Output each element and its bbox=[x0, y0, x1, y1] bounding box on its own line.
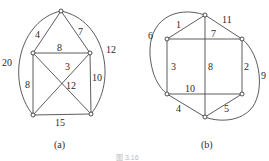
weight-b-6: 6 bbox=[148, 30, 153, 41]
node-a-mr bbox=[88, 51, 92, 55]
weight-a-8-top: 8 bbox=[57, 42, 62, 53]
node-b-ul bbox=[165, 37, 169, 41]
graph-a: 4 7 8 3 12 8 10 15 20 12 (a) bbox=[2, 9, 116, 151]
weight-a-20: 20 bbox=[2, 57, 12, 68]
edge-a-ml-br bbox=[33, 53, 91, 114]
node-b-bot bbox=[203, 115, 207, 119]
weight-b-1: 1 bbox=[176, 19, 181, 30]
weight-a-8-left: 8 bbox=[25, 79, 30, 90]
weight-a-15: 15 bbox=[55, 117, 65, 128]
caption-a: (a) bbox=[54, 139, 65, 151]
weight-b-10: 10 bbox=[185, 83, 195, 94]
edge-a-bl-br bbox=[33, 114, 91, 115]
node-b-ur bbox=[240, 37, 244, 41]
edge-b-top-ul bbox=[167, 15, 205, 39]
figure-caption-fragment: 图 3.16 bbox=[116, 154, 139, 161]
node-a-bl bbox=[31, 113, 35, 117]
edge-a-top-mr bbox=[61, 11, 90, 53]
weight-a-4: 4 bbox=[35, 29, 40, 40]
edge-a-mr-br bbox=[90, 53, 91, 114]
caption-b: (b) bbox=[201, 139, 213, 151]
weight-a-10: 10 bbox=[92, 72, 102, 83]
node-b-lr bbox=[240, 92, 244, 96]
weight-b-2: 2 bbox=[244, 61, 249, 72]
node-a-br bbox=[89, 112, 93, 116]
edge-b-ll-bot bbox=[167, 94, 205, 117]
weight-b-4: 4 bbox=[176, 103, 181, 114]
edge-a-top-bl-arc bbox=[19, 11, 61, 115]
figure-canvas: 4 7 8 3 12 8 10 15 20 12 (a) 1 11 bbox=[0, 0, 269, 161]
weight-b-9: 9 bbox=[261, 70, 266, 81]
node-a-ml bbox=[31, 51, 35, 55]
weight-a-7: 7 bbox=[78, 26, 83, 37]
weight-b-5: 5 bbox=[224, 103, 229, 114]
node-b-top bbox=[203, 13, 207, 17]
weight-a-12-diag: 12 bbox=[66, 80, 76, 91]
weight-a-3: 3 bbox=[65, 61, 70, 72]
weight-b-11: 11 bbox=[222, 14, 232, 25]
graph-b: 1 11 7 6 3 8 2 9 10 4 5 (b) bbox=[148, 12, 266, 151]
weight-b-7: 7 bbox=[211, 28, 216, 39]
node-a-top bbox=[59, 9, 63, 13]
edge-b-ur-bot-arc bbox=[205, 39, 259, 120]
weight-b-3: 3 bbox=[171, 61, 176, 72]
weight-a-12-arc: 12 bbox=[106, 44, 116, 55]
node-b-ll bbox=[165, 92, 169, 96]
weight-b-8: 8 bbox=[208, 61, 213, 72]
